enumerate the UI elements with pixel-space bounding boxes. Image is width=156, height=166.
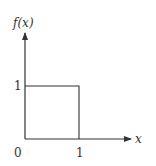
x-axis-label: x — [135, 132, 142, 146]
origin-label: 0 — [14, 146, 22, 160]
uniform-density-chart: f(x) x 1 0 1 — [0, 0, 156, 166]
density-line — [25, 86, 79, 139]
y-axis-label: f(x) — [12, 16, 34, 30]
x-tick-1: 1 — [76, 146, 84, 160]
y-tick-1: 1 — [14, 79, 22, 93]
